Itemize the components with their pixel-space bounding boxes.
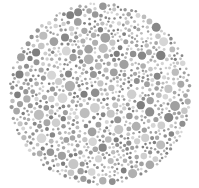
- plate-dot: [151, 56, 154, 59]
- plate-dot: [60, 136, 63, 139]
- plate-dot: [141, 119, 143, 121]
- plate-dot: [66, 159, 69, 162]
- plate-dot: [84, 45, 93, 54]
- plate-dot: [59, 28, 63, 32]
- plate-dot: [34, 110, 44, 120]
- plate-dot: [21, 127, 25, 131]
- plate-dot: [91, 84, 94, 87]
- plate-dot: [110, 54, 113, 57]
- plate-dot: [134, 150, 137, 153]
- plate-dot: [119, 60, 128, 69]
- plate-dot: [24, 122, 28, 126]
- plate-dot: [23, 107, 25, 109]
- plate-dot: [100, 33, 110, 43]
- plate-dot: [96, 23, 99, 26]
- plate-dot: [48, 96, 54, 102]
- plate-dot: [77, 45, 80, 48]
- plate-dot: [118, 95, 120, 97]
- plate-dot: [146, 147, 149, 150]
- plate-dot: [174, 136, 176, 138]
- plate-dot: [32, 147, 35, 150]
- plate-dot: [46, 114, 49, 117]
- plate-dot: [79, 140, 81, 142]
- plate-dot: [89, 38, 91, 40]
- plate-dot: [94, 20, 96, 22]
- plate-dot: [178, 94, 181, 97]
- plate-dot: [172, 69, 179, 76]
- plate-dot: [67, 104, 71, 108]
- plate-dot: [36, 39, 39, 42]
- plate-dot: [122, 106, 126, 110]
- plate-dot: [74, 35, 78, 39]
- plate-dot: [75, 65, 78, 68]
- plate-dot: [76, 100, 79, 103]
- plate-dot: [180, 114, 184, 118]
- plate-dot: [127, 28, 131, 32]
- plate-dot: [112, 78, 115, 81]
- plate-dot: [109, 124, 112, 127]
- plate-dot: [102, 153, 105, 156]
- plate-dot: [82, 154, 85, 157]
- plate-dot: [129, 152, 132, 155]
- plate-dot: [80, 161, 85, 166]
- plate-dot: [109, 132, 112, 135]
- plate-dot: [63, 68, 65, 70]
- plate-dot: [53, 65, 56, 68]
- plate-dot: [180, 61, 185, 66]
- plate-dot: [13, 77, 16, 80]
- plate-dot: [88, 168, 96, 176]
- plate-dot: [111, 166, 114, 169]
- plate-dot: [30, 110, 33, 113]
- plate-dot: [38, 92, 41, 95]
- plate-dot: [151, 84, 154, 87]
- plate-dot: [46, 68, 49, 71]
- plate-dot: [78, 66, 81, 69]
- plate-dot: [87, 146, 90, 149]
- plate-dot: [64, 169, 67, 172]
- plate-dot: [39, 121, 41, 123]
- plate-dot: [131, 63, 134, 66]
- plate-dot: [140, 48, 142, 50]
- plate-dot: [49, 109, 54, 114]
- plate-dot: [150, 38, 152, 40]
- plate-dot: [150, 78, 154, 82]
- plate-dot: [89, 2, 91, 4]
- plate-dot: [50, 26, 53, 29]
- plate-dot: [173, 65, 176, 68]
- plate-dot: [169, 47, 175, 53]
- plate-dot: [113, 170, 116, 173]
- plate-dot: [83, 22, 86, 25]
- plate-dot: [125, 176, 128, 179]
- plate-dot: [109, 171, 111, 173]
- plate-dot: [146, 49, 152, 55]
- plate-dot: [106, 62, 110, 66]
- plate-dot: [45, 101, 48, 104]
- plate-dot: [124, 124, 126, 126]
- plate-dot: [95, 59, 98, 62]
- plate-dot: [80, 91, 87, 98]
- plate-dot: [98, 71, 102, 75]
- plate-dot: [128, 156, 131, 159]
- plate-dot: [102, 98, 105, 101]
- plate-dot: [32, 152, 36, 156]
- plate-dot: [50, 86, 55, 91]
- plate-dot: [54, 54, 58, 58]
- plate-dot: [158, 46, 161, 49]
- plate-dot: [135, 44, 139, 48]
- plate-dot: [138, 51, 146, 59]
- plate-dot: [78, 5, 81, 8]
- plate-dot: [120, 29, 122, 31]
- plate-dot: [180, 131, 182, 133]
- plate-dot: [26, 140, 28, 142]
- plate-dot: [122, 103, 125, 106]
- plate-dot: [27, 114, 29, 116]
- plate-dot: [121, 88, 123, 90]
- plate-dot: [179, 75, 182, 78]
- plate-dot: [121, 164, 124, 167]
- plate-dot: [122, 154, 125, 157]
- plate-dot: [61, 169, 64, 172]
- plate-dot: [69, 177, 71, 179]
- plate-dot: [128, 107, 131, 110]
- plate-dot: [117, 29, 119, 31]
- plate-dot: [166, 147, 168, 149]
